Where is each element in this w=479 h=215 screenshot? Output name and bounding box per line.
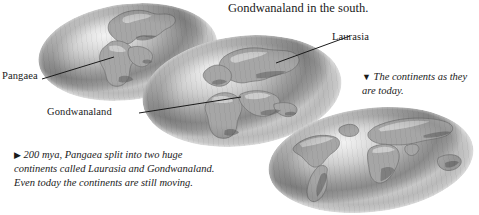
label-pangaea: Pangaea <box>2 70 38 82</box>
caption-continental-drift: ▶ 200 mya, Pangaea split into two huge c… <box>14 148 224 190</box>
triangle-down-icon: ▼ <box>362 72 371 82</box>
continental-drift-figure: Gondwanaland in the south. Laurasia Pang… <box>0 0 479 215</box>
caption-continental-drift-text: 200 mya, Pangaea split into two huge con… <box>14 149 214 188</box>
label-laurasia: Laurasia <box>332 31 369 43</box>
label-gondwanaland: Gondwanaland <box>47 106 112 118</box>
triangle-right-icon: ▶ <box>14 150 21 160</box>
caption-continents-today-text: The continents as they are today. <box>362 71 467 96</box>
figure-heading: Gondwanaland in the south. <box>228 1 368 16</box>
caption-continents-today: ▼ The continents as they are today. <box>362 70 478 98</box>
